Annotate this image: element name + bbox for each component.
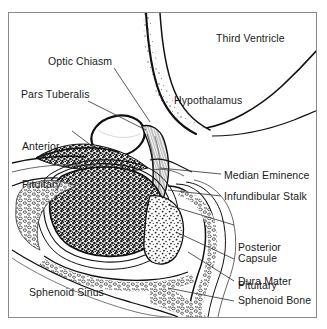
label-anterior-pituitary: Anterior Pituitary [22, 115, 61, 215]
label-sphenoid-sinus: Sphenoid Sinus [29, 286, 104, 298]
brain-base-contour-lower [212, 110, 318, 136]
third-ventricle-wall-anterior [146, 13, 196, 134]
label-pars-tuberalis: Pars Tuberalis [21, 88, 90, 100]
label-sphenoid-bone: Sphenoid Bone [238, 294, 311, 306]
label-capsule: Capsule [238, 252, 277, 264]
label-infundibular-stalk: Infundibular Stalk [224, 190, 307, 202]
label-median-eminence: Median Eminence [224, 169, 310, 181]
hypothalamus-tissue [142, 13, 206, 128]
label-anterior-pituitary-line2: Pituitary [22, 178, 61, 191]
label-hypothalamus: Hypothalamus [174, 94, 242, 106]
label-third-ventricle: Third Ventricle [216, 32, 285, 44]
label-anterior-pituitary-line1: Anterior [22, 140, 61, 153]
label-optic-chiasm: Optic Chiasm [48, 55, 112, 67]
label-dura-mater: Dura Mater [238, 275, 292, 287]
third-ventricle-wall-posterior [160, 13, 210, 130]
anatomy-figure: Third Ventricle Optic Chiasm Hypothalamu… [0, 0, 327, 329]
leader-optic-chiasm [114, 68, 150, 122]
brain-base-contour-upper [206, 49, 318, 128]
